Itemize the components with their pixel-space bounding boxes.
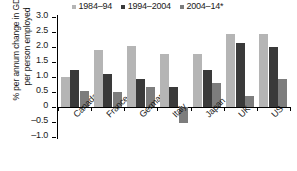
y-axis-tick-label: 0 xyxy=(2,101,48,110)
bar-group: US xyxy=(257,0,290,171)
bar-group: Germany xyxy=(124,0,157,171)
bar xyxy=(259,34,268,107)
y-axis-tick-mark xyxy=(52,17,56,18)
x-axis-tick-mark xyxy=(91,107,92,111)
y-axis-tick-mark xyxy=(52,62,56,63)
bar xyxy=(61,77,70,107)
bar xyxy=(160,54,169,107)
x-axis-tick-mark xyxy=(157,107,158,111)
bar-group: France xyxy=(91,0,124,171)
bar xyxy=(269,47,278,107)
y-axis-tick-mark xyxy=(52,47,56,48)
y-axis-tick-label: –1.0 xyxy=(2,131,48,140)
x-axis-tick-mark xyxy=(191,107,192,111)
y-axis-tick-label: –0.5 xyxy=(2,116,48,125)
bar xyxy=(203,70,212,108)
y-axis-tick-mark xyxy=(52,137,56,138)
x-axis-tick-mark xyxy=(124,107,125,111)
y-axis-tick-mark xyxy=(52,122,56,123)
bar-chart: 1984–94 1994–2004 2004–14* % per annum c… xyxy=(0,0,297,171)
bar-group: UK xyxy=(224,0,257,171)
x-axis-tick-mark xyxy=(58,107,59,111)
y-axis-tick-mark xyxy=(52,77,56,78)
y-axis-tick-mark xyxy=(52,107,56,108)
y-axis-tick-label: 1.0 xyxy=(2,71,48,80)
bar-group: Canada xyxy=(58,0,91,171)
bar xyxy=(236,43,245,108)
bar-groups: CanadaFranceGermanyItalyJapanUKUS xyxy=(58,0,290,171)
y-axis-tick-mark xyxy=(52,32,56,33)
bar xyxy=(94,50,103,107)
x-axis-tick-mark xyxy=(257,107,258,111)
y-axis-tick-label: 1.5 xyxy=(2,56,48,65)
bar xyxy=(278,79,287,107)
y-axis-tick-label: 2.0 xyxy=(2,41,48,50)
y-axis-tick-label: 3.0 xyxy=(2,11,48,20)
bar-group: Japan xyxy=(191,0,224,171)
bar-group: Italy xyxy=(157,0,190,171)
bar xyxy=(70,70,79,108)
y-axis-tick-mark xyxy=(52,92,56,93)
bar xyxy=(127,46,136,107)
y-axis-tick-label: 0.5 xyxy=(2,86,48,95)
bar xyxy=(103,74,112,107)
bar xyxy=(136,79,145,108)
bar xyxy=(193,54,202,107)
bar xyxy=(226,34,235,108)
x-axis-tick-mark xyxy=(224,107,225,111)
y-axis-tick-label: 2.5 xyxy=(2,26,48,35)
x-axis-tick-mark xyxy=(290,107,291,111)
